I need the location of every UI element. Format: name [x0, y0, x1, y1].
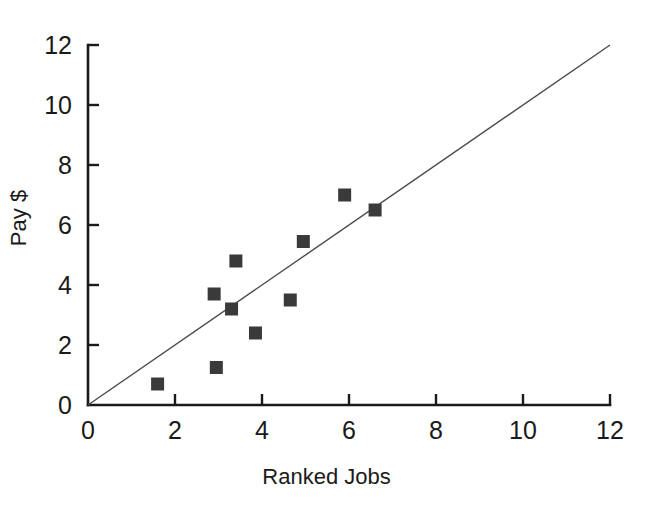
- y-tick-label: 4: [30, 273, 72, 298]
- plot-area: [0, 0, 653, 509]
- y-tick-label: 10: [30, 93, 72, 118]
- y-tick-label: 8: [30, 153, 72, 178]
- y-tick-label: 2: [30, 333, 72, 358]
- y-axis-title: Pay $: [8, 173, 30, 263]
- data-point: [369, 204, 382, 217]
- x-tick-label: 2: [168, 418, 182, 443]
- x-tick-label: 6: [342, 418, 356, 443]
- data-point: [210, 361, 223, 374]
- x-tick-label: 10: [509, 418, 537, 443]
- data-point: [151, 378, 164, 391]
- identity-line: [88, 45, 610, 405]
- data-point: [249, 327, 262, 340]
- x-tick-label: 4: [255, 418, 269, 443]
- x-tick-label: 0: [81, 418, 95, 443]
- data-points-group: [151, 189, 382, 391]
- data-point: [225, 303, 238, 316]
- x-axis-title: Ranked Jobs: [0, 466, 653, 488]
- data-point: [208, 288, 221, 301]
- y-tick-label: 12: [30, 33, 72, 58]
- data-point: [284, 294, 297, 307]
- data-point: [297, 235, 310, 248]
- y-tick-label: 0: [30, 393, 72, 418]
- x-tick-label: 8: [429, 418, 443, 443]
- y-tick-label: 6: [30, 213, 72, 238]
- data-point: [338, 189, 351, 202]
- reference-line-group: [88, 45, 610, 405]
- x-tick-label: 12: [596, 418, 624, 443]
- data-point: [229, 255, 242, 268]
- scatter-chart: 024681012 024681012 Ranked Jobs Pay $: [0, 0, 653, 509]
